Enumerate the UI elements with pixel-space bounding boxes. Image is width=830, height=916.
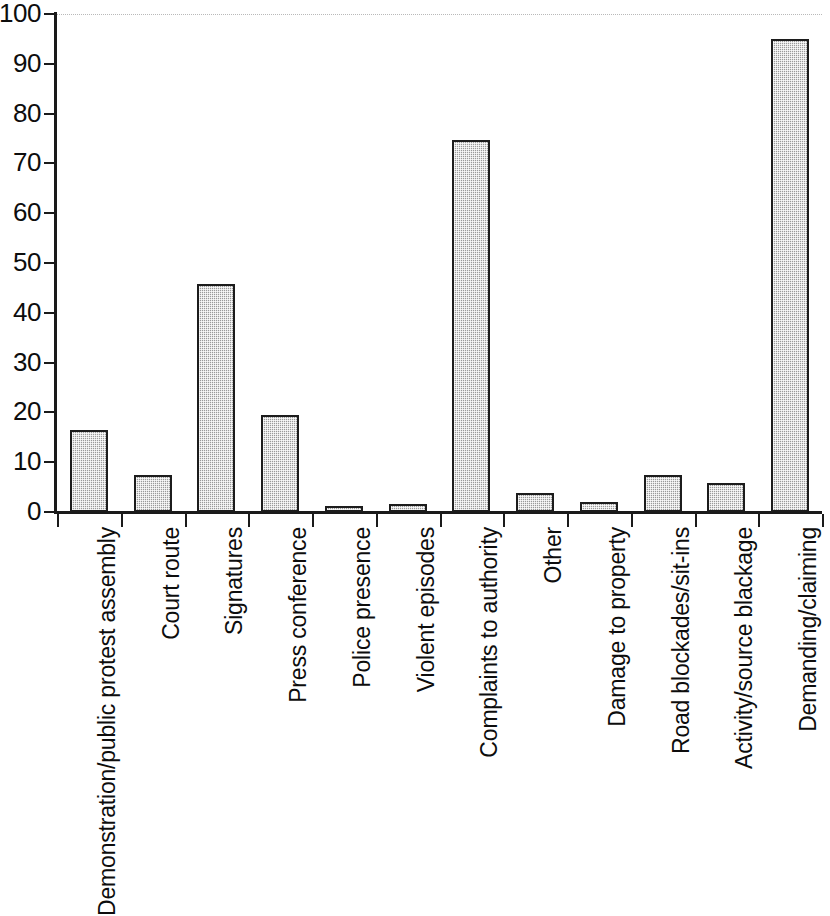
x-axis-tick: [440, 514, 442, 527]
x-axis-category-label: Demonstration/public protest assembly: [96, 527, 119, 916]
x-axis-category: Signatures: [216, 527, 239, 635]
x-axis-category: Other: [535, 527, 558, 584]
x-axis-tick: [503, 514, 505, 527]
x-axis-category: Demanding/claiming: [790, 527, 813, 732]
x-axis-tick: [121, 514, 123, 527]
x-axis-tick: [185, 514, 187, 527]
x-axis-category-label: Press conference: [287, 527, 310, 703]
x-axis-tick: [248, 514, 250, 527]
x-axis-category: Court route: [153, 527, 176, 640]
x-axis-tick: [758, 514, 760, 527]
x-axis-category: Demonstration/public protest assembly: [89, 527, 112, 916]
x-axis-tick: [695, 514, 697, 527]
x-axis-category: Complaints to authority: [471, 527, 494, 758]
x-axis-category: Road blockades/sit-ins: [663, 527, 686, 754]
x-axis-category-label: Activity/source blackage: [733, 527, 756, 769]
x-axis-category: Press conference: [280, 527, 303, 703]
x-axis-tick: [57, 514, 59, 527]
x-axis-category-label: Signatures: [223, 527, 246, 635]
x-axis-category-label: Complaints to authority: [478, 527, 501, 758]
x-axis-category: Damage to property: [599, 527, 622, 727]
x-axis-category-label: Court route: [160, 527, 183, 640]
x-axis-category-label: Police presence: [351, 527, 374, 688]
x-axis-category-label: Road blockades/sit-ins: [670, 527, 693, 754]
x-axis-category-label: Demanding/claiming: [797, 527, 820, 732]
x-axis-category-label: Other: [542, 527, 565, 584]
x-axis-category: Violent episodes: [408, 527, 431, 692]
x-axis-tick: [631, 514, 633, 527]
x-axis-tick: [312, 514, 314, 527]
x-axis-category-label: Damage to property: [606, 527, 629, 727]
x-axis-category-label: Violent episodes: [415, 527, 438, 692]
x-axis-tick: [376, 514, 378, 527]
x-axis-category: Police presence: [344, 527, 367, 688]
x-axis-category: Activity/source blackage: [726, 527, 749, 769]
x-axis-tick: [567, 514, 569, 527]
x-axis-tick: [822, 514, 824, 527]
